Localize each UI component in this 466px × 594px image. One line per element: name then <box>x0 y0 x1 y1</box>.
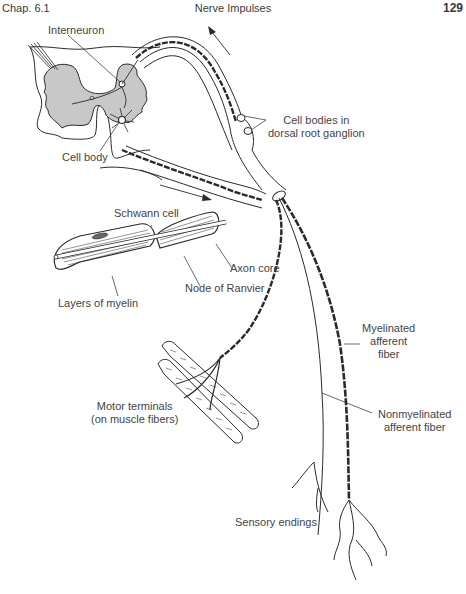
label-interneuron: Interneuron <box>48 24 104 37</box>
muscle-fibers <box>158 341 258 443</box>
label-motor-terminals: Motor terminals (on muscle fibers) <box>91 400 178 426</box>
label-myelinated-afferent-fiber: Myelinated afferent fiber <box>362 322 415 361</box>
label-layers-of-myelin: Layers of myelin <box>58 297 138 310</box>
dorsal-rootlets <box>28 42 58 70</box>
gray-matter <box>44 64 147 128</box>
label-cell-body: Cell body <box>62 151 108 164</box>
label-sensory-endings: Sensory endings <box>235 516 317 529</box>
label-cell-bodies-ganglion: Cell bodies in dorsal root ganglion <box>268 114 365 140</box>
label-node-of-ranvier: Node of Ranvier <box>185 282 265 295</box>
label-nonmyelinated-afferent-fiber: Nonmyelinated afferent fiber <box>378 408 451 434</box>
label-schwann-cell: Schwann cell <box>114 207 179 220</box>
nerve-bundle <box>122 26 349 535</box>
label-axon-core: Axon core <box>230 262 280 275</box>
myelin-inset <box>54 212 226 269</box>
